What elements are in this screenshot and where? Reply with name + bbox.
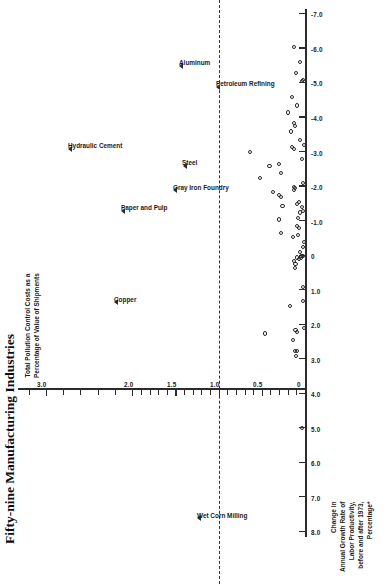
x-tick <box>299 324 305 325</box>
y-tick-minor <box>158 390 159 395</box>
data-point <box>289 129 293 133</box>
y-tick <box>175 389 176 396</box>
x-tick <box>299 358 305 359</box>
x-tick-label: 3.0 <box>311 357 320 364</box>
chart-page: Fifty-nine Manufacturing Industries 8.07… <box>0 0 388 584</box>
y-tick-minor <box>288 390 289 395</box>
x-tick <box>299 13 305 14</box>
x-axis-title-line: Labor Productivity, <box>348 502 357 572</box>
y-tick-minor <box>184 390 185 395</box>
y-tick-label: 1.0 <box>210 381 219 388</box>
data-point <box>298 138 302 142</box>
y-tick-minor <box>236 390 237 395</box>
y-tick-minor <box>245 390 246 395</box>
x-tick <box>299 496 305 497</box>
x-tick-label: 6.0 <box>311 460 320 467</box>
x-tick <box>299 151 305 152</box>
data-point <box>291 235 295 239</box>
data-point <box>296 233 300 237</box>
data-point <box>294 354 298 358</box>
x-tick-label: -7.0 <box>311 11 323 18</box>
x-axis-line <box>305 9 307 537</box>
data-point <box>258 176 262 180</box>
y-axis-title: Total Pollution Control Costs as aPercen… <box>24 273 42 378</box>
data-point <box>263 331 267 335</box>
y-tick-minor <box>167 390 168 395</box>
y-tick-minor <box>227 390 228 395</box>
data-point-label: Wet Corn Milling <box>197 512 247 519</box>
data-point <box>271 190 275 194</box>
y-tick <box>132 389 133 396</box>
y-tick <box>46 389 47 396</box>
x-tick-label: -4.0 <box>311 115 323 122</box>
x-tick-label: 1.0 <box>311 288 320 295</box>
y-tick <box>219 389 220 396</box>
data-point <box>297 200 301 204</box>
data-point <box>298 60 302 64</box>
x-axis-title-line: Annual Growth Rate of <box>339 502 348 572</box>
data-point <box>277 217 281 221</box>
data-point <box>293 328 297 332</box>
x-tick <box>299 47 305 48</box>
rotated-figure: Fifty-nine Manufacturing Industries 8.07… <box>0 0 388 584</box>
y-axis-title-line: Total Pollution Control Costs as a <box>24 273 33 378</box>
data-point <box>300 157 304 161</box>
data-point <box>292 45 296 49</box>
y-tick-label: 2.0 <box>124 381 133 388</box>
y-tick-minor <box>279 390 280 395</box>
y-tick <box>262 389 263 396</box>
x-axis-title-line: Percentage* <box>366 502 375 572</box>
y-tick-minor <box>115 390 116 395</box>
x-tick <box>299 116 305 117</box>
x-tick <box>299 531 305 532</box>
y-tick-minor <box>270 390 271 395</box>
x-tick <box>299 462 305 463</box>
y-tick-minor <box>253 390 254 395</box>
data-point-label: Steel <box>182 159 197 166</box>
data-point <box>279 171 283 175</box>
data-point <box>248 150 252 154</box>
y-tick-label: 1.5 <box>167 381 176 388</box>
y-tick-minor <box>201 390 202 395</box>
y-tick-label: 3.0 <box>37 381 46 388</box>
x-tick-label: 0 <box>311 253 315 260</box>
x-tick <box>299 220 305 221</box>
data-point <box>286 110 290 114</box>
y-tick-minor <box>141 390 142 395</box>
x-axis-title-line: before and after 1973, <box>357 502 366 572</box>
x-tick <box>299 185 305 186</box>
x-tick-label: -1.0 <box>311 219 323 226</box>
y-axis-line <box>18 388 307 390</box>
y-tick-minor <box>98 390 99 395</box>
data-point-label: Hydraulic Cement <box>68 142 122 149</box>
data-point <box>288 304 292 308</box>
y-tick-minor <box>193 390 194 395</box>
y-tick-minor <box>80 390 81 395</box>
data-point <box>277 162 281 166</box>
x-tick-label: -3.0 <box>311 150 323 157</box>
data-point-label: Copper <box>114 296 136 303</box>
y-tick-label: 0 <box>297 381 301 388</box>
y-tick <box>305 389 306 396</box>
x-tick-label: -6.0 <box>311 46 323 53</box>
x-axis-title-line: Change in <box>330 502 339 572</box>
y-tick-label: 0.5 <box>253 381 262 388</box>
data-point <box>293 266 297 270</box>
data-point <box>293 349 297 353</box>
data-point-label: Gray Iron Foundry <box>173 184 229 191</box>
data-point-label: Petroleum Refining <box>216 80 275 87</box>
y-tick-minor <box>296 390 297 395</box>
data-point-label: Paper and Pulp <box>121 204 168 211</box>
x-axis-title: Change inAnnual Growth Rate ofLabor Prod… <box>330 502 375 572</box>
data-point <box>279 231 283 235</box>
y-axis-title-line: Percentage of Value of Shipments <box>33 273 42 378</box>
data-point <box>290 95 294 99</box>
data-point <box>280 204 284 208</box>
y-tick-minor <box>150 390 151 395</box>
x-tick-label: 7.0 <box>311 495 320 502</box>
data-point <box>294 71 298 75</box>
data-point <box>267 164 271 168</box>
y-tick-minor <box>63 390 64 395</box>
x-tick-label: 5.0 <box>311 426 320 433</box>
x-tick-label: -2.0 <box>311 184 323 191</box>
